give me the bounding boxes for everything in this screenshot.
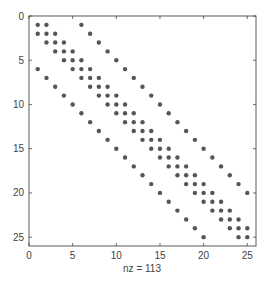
nonzero-marker bbox=[97, 129, 101, 133]
nonzero-marker bbox=[62, 93, 66, 97]
nonzero-marker bbox=[123, 102, 127, 106]
nonzero-marker bbox=[193, 191, 197, 195]
nonzero-marker bbox=[175, 120, 179, 124]
nonzero-marker bbox=[70, 49, 74, 53]
nonzero-marker bbox=[201, 191, 205, 195]
nonzero-marker bbox=[236, 226, 240, 230]
x-tick-label: 5 bbox=[70, 250, 76, 261]
nonzero-marker bbox=[140, 138, 144, 142]
x-tick-label: 10 bbox=[111, 250, 123, 261]
nonzero-marker bbox=[193, 138, 197, 142]
nonzero-marker bbox=[62, 40, 66, 44]
x-tick-label: 25 bbox=[242, 250, 254, 261]
nonzero-marker bbox=[201, 182, 205, 186]
spy-plot: 0510152025 0510152025 nz = 113 bbox=[0, 0, 268, 283]
nonzero-marker bbox=[166, 146, 170, 150]
nonzero-marker bbox=[210, 191, 214, 195]
nonzero-marker bbox=[236, 235, 240, 239]
nonzero-marker bbox=[36, 67, 40, 71]
nonzero-marker bbox=[149, 129, 153, 133]
x-tick-label: 0 bbox=[26, 250, 32, 261]
nonzero-marker bbox=[132, 120, 136, 124]
nonzero-marker bbox=[245, 235, 249, 239]
nonzero-marker bbox=[105, 138, 109, 142]
nonzero-marker bbox=[219, 208, 223, 212]
nonzero-marker bbox=[88, 67, 92, 71]
nonzero-marker bbox=[140, 120, 144, 124]
nonzero-marker bbox=[114, 58, 118, 62]
nonzero-marker bbox=[97, 76, 101, 80]
nonzero-marker bbox=[245, 226, 249, 230]
nonzero-marker bbox=[166, 155, 170, 159]
nonzero-marker bbox=[201, 200, 205, 204]
nonzero-marker bbox=[158, 191, 162, 195]
x-tick-label: 20 bbox=[198, 250, 210, 261]
nonzero-marker bbox=[44, 31, 48, 35]
nonzero-marker bbox=[132, 111, 136, 115]
nonzero-marker bbox=[79, 111, 83, 115]
nonzero-marker bbox=[219, 200, 223, 204]
nonzero-marker bbox=[36, 23, 40, 27]
nonzero-marker bbox=[114, 146, 118, 150]
nonzero-marker bbox=[236, 217, 240, 221]
nonzero-marker bbox=[88, 31, 92, 35]
nonzero-marker bbox=[149, 138, 153, 142]
nonzero-marker bbox=[228, 226, 232, 230]
nonzero-marker bbox=[193, 226, 197, 230]
nonzero-marker bbox=[210, 155, 214, 159]
nonzero-marker bbox=[79, 23, 83, 27]
nonzero-marker bbox=[44, 23, 48, 27]
nonzero-marker bbox=[175, 155, 179, 159]
y-tick-label: 15 bbox=[13, 143, 25, 154]
y-tick-label: 0 bbox=[18, 11, 24, 22]
nonzero-marker bbox=[123, 67, 127, 71]
nonzero-marker bbox=[184, 164, 188, 168]
x-axis-label: nz = 113 bbox=[123, 263, 161, 274]
nonzero-marker bbox=[114, 102, 118, 106]
nonzero-marker bbox=[62, 49, 66, 53]
nonzero-marker bbox=[166, 164, 170, 168]
y-tick-label: 25 bbox=[13, 232, 25, 243]
nonzero-marker bbox=[70, 102, 74, 106]
nonzero-marker bbox=[149, 146, 153, 150]
nonzero-marker bbox=[114, 93, 118, 97]
nonzero-marker bbox=[184, 173, 188, 177]
nonzero-marker bbox=[70, 58, 74, 62]
nonzero-marker bbox=[105, 102, 109, 106]
nonzero-marker bbox=[219, 217, 223, 221]
nonzero-marker bbox=[88, 120, 92, 124]
nonzero-marker bbox=[184, 182, 188, 186]
nonzero-marker bbox=[79, 58, 83, 62]
x-tick-label: 15 bbox=[154, 250, 166, 261]
nonzero-marker bbox=[184, 129, 188, 133]
nonzero-marker bbox=[166, 200, 170, 204]
nonzero-marker bbox=[53, 85, 57, 89]
nonzero-marker bbox=[175, 164, 179, 168]
nonzero-marker bbox=[97, 40, 101, 44]
nonzero-marker bbox=[105, 49, 109, 53]
nonzero-marker bbox=[219, 164, 223, 168]
nonzero-marker bbox=[236, 182, 240, 186]
nonzero-marker bbox=[228, 173, 232, 177]
y-tick-label: 20 bbox=[13, 187, 25, 198]
nonzero-marker bbox=[44, 40, 48, 44]
nonzero-marker bbox=[123, 155, 127, 159]
x-axis-ticks: 0510152025 bbox=[26, 16, 253, 261]
nonzero-marker bbox=[53, 31, 57, 35]
nonzero-marker bbox=[193, 173, 197, 177]
nonzero-marker bbox=[140, 129, 144, 133]
nonzero-marker bbox=[105, 93, 109, 97]
nonzero-marker bbox=[97, 85, 101, 89]
nonzero-marker bbox=[201, 146, 205, 150]
nonzero-marker bbox=[210, 200, 214, 204]
nonzero-marker bbox=[123, 120, 127, 124]
nonzero-marker bbox=[175, 173, 179, 177]
nonzero-marker bbox=[149, 182, 153, 186]
nonzero-marker bbox=[105, 85, 109, 89]
nonzero-marker bbox=[70, 67, 74, 71]
nonzero-marker bbox=[210, 208, 214, 212]
nonzero-marker bbox=[36, 31, 40, 35]
nonzero-marker bbox=[175, 208, 179, 212]
nonzero-marker bbox=[132, 164, 136, 168]
nonzero-marker bbox=[158, 102, 162, 106]
